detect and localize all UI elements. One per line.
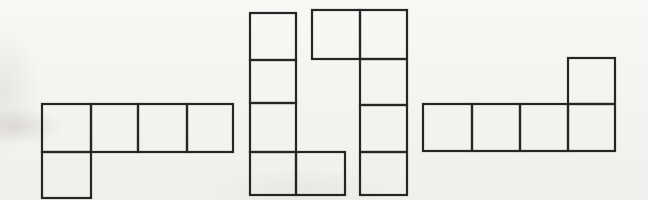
pentomino-cell bbox=[360, 59, 407, 105]
scanned-page bbox=[0, 0, 648, 200]
pentomino-figure bbox=[0, 0, 648, 200]
pentomino-cell bbox=[312, 10, 360, 59]
pentomino-cell bbox=[472, 104, 520, 151]
pentomino-shape-1 bbox=[42, 104, 233, 198]
pentomino-cell bbox=[250, 152, 296, 195]
pentomino-shape-4 bbox=[423, 58, 615, 151]
pentomino-cell bbox=[296, 152, 345, 195]
pentomino-cell bbox=[360, 105, 407, 152]
pentomino-cell bbox=[360, 152, 407, 195]
pentomino-cell bbox=[360, 10, 407, 59]
pentomino-shape-3 bbox=[312, 10, 407, 195]
pentomino-cell bbox=[42, 104, 91, 152]
pentomino-shape-2 bbox=[250, 13, 345, 195]
pentomino-cell bbox=[568, 104, 615, 151]
pentomino-cell bbox=[42, 152, 91, 198]
pentomino-cell bbox=[250, 103, 296, 152]
pentomino-cell bbox=[91, 104, 138, 152]
pentomino-cell bbox=[187, 104, 233, 152]
pentomino-cell bbox=[423, 104, 472, 151]
pentomino-cell bbox=[250, 13, 296, 60]
pentomino-cell bbox=[568, 58, 615, 104]
pentomino-cell bbox=[250, 60, 296, 103]
pentomino-cell bbox=[520, 104, 568, 151]
pentomino-cell bbox=[138, 104, 187, 152]
